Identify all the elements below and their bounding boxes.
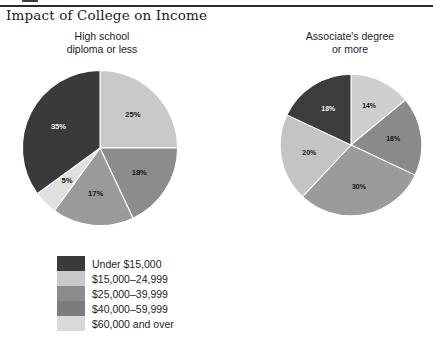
pie-svg: 14%18%30%20%18% — [278, 72, 424, 218]
legend-item: $60,000 and over — [57, 316, 174, 331]
legend-label: $40,000–59,999 — [92, 303, 168, 315]
pie-slice-label: 14% — [362, 102, 376, 109]
pie-slice-label: 17% — [88, 189, 103, 198]
panel-heading-line1: High school — [75, 30, 130, 42]
legend-swatch — [57, 271, 85, 286]
pie-slice-label: 18% — [386, 135, 400, 142]
legend-swatch — [57, 286, 85, 301]
panel-heading-line2: diploma or less — [38, 43, 166, 56]
legend-label: Under $15,000 — [92, 258, 161, 270]
legend-item: $15,000–24,999 — [57, 271, 174, 286]
pie-slice-label: 5% — [62, 176, 73, 185]
pie-chart-associates: 14%18%30%20%18% — [278, 72, 424, 218]
pie-slice-label: 35% — [51, 122, 66, 131]
legend-label: $25,000–39,999 — [92, 288, 168, 300]
pie-chart-high-school: 25%18%17%5%35% — [20, 68, 180, 228]
legend-item: Under $15,000 — [57, 256, 174, 271]
legend-label: $15,000–24,999 — [92, 273, 168, 285]
panel-heading-line2: or more — [286, 43, 414, 56]
pie-slice-label: 20% — [302, 149, 316, 156]
pie-slice-label: 18% — [132, 168, 147, 177]
legend-label: $60,000 and over — [92, 318, 174, 330]
figure-title: Impact of College on Income — [6, 7, 207, 23]
legend: Under $15,000$15,000–24,999$25,000–39,99… — [57, 256, 174, 331]
clipped-header-mark — [22, 0, 38, 2]
pie-slice-label: 18% — [321, 105, 335, 112]
legend-swatch — [57, 301, 85, 316]
pie-slice-label: 25% — [125, 110, 140, 119]
pie-slice — [100, 70, 178, 148]
legend-swatch — [57, 256, 85, 271]
legend-item: $40,000–59,999 — [57, 301, 174, 316]
legend-swatch — [57, 316, 85, 331]
pie-slice-label: 30% — [352, 183, 366, 190]
panel-heading-associates: Associate's degree or more — [286, 30, 414, 56]
legend-item: $25,000–39,999 — [57, 286, 174, 301]
panel-heading-high-school: High school diploma or less — [38, 30, 166, 56]
pie-svg: 25%18%17%5%35% — [20, 68, 180, 228]
panel-heading-line1: Associate's degree — [306, 30, 394, 42]
